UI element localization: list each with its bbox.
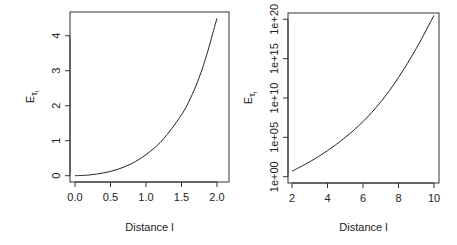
right-y-axis-label: Eτl: [242, 92, 258, 104]
y-tick-label: 1e+10: [268, 83, 280, 114]
svg-text:Eτl: Eτl: [24, 91, 40, 103]
left-y-axis: 01234: [50, 33, 70, 179]
figure: 0.00.51.01.52.0 01234 Distance l Eτl 246…: [0, 0, 457, 245]
y-tick-label: 0: [50, 173, 62, 179]
svg-text:Eτl: Eτl: [242, 92, 258, 104]
y-tick-label: 1e+05: [268, 122, 280, 153]
x-tick-label: 2: [289, 192, 295, 204]
right-plot-frame: [288, 13, 439, 183]
x-tick-label: 0.0: [67, 191, 82, 203]
left-plot-frame: [70, 12, 229, 182]
right-chart: 246810 1e+001e+051e+101e+151e+20 Distanc…: [242, 4, 440, 233]
x-tick-label: 8: [395, 192, 401, 204]
y-tick-label: 1e+20: [268, 4, 280, 35]
x-tick-label: 0.5: [103, 191, 118, 203]
y-tick-label: 2: [50, 103, 62, 109]
x-tick-label: 10: [428, 192, 440, 204]
left-y-axis-label: Eτl: [24, 91, 40, 103]
left-chart: 0.00.51.01.52.0 01234 Distance l Eτl: [24, 12, 229, 233]
right-curve: [292, 15, 434, 171]
x-tick-label: 2.0: [209, 191, 224, 203]
y-tick-label: 4: [50, 33, 62, 39]
y-tick-label: 1e+00: [268, 161, 280, 192]
x-tick-label: 6: [360, 192, 366, 204]
right-y-axis: 1e+001e+051e+101e+151e+20: [268, 4, 288, 192]
left-curve: [75, 18, 217, 175]
y-tick-label: 3: [50, 68, 62, 74]
left-x-axis: 0.00.51.01.52.0: [67, 182, 224, 203]
left-x-axis-label: Distance l: [125, 221, 173, 233]
x-tick-label: 4: [324, 192, 330, 204]
y-tick-label: 1e+15: [268, 43, 280, 74]
y-tick-label: 1: [50, 138, 62, 144]
x-tick-label: 1.5: [174, 191, 189, 203]
right-x-axis: 246810: [289, 183, 440, 204]
right-x-axis-label: Distance l: [339, 221, 387, 233]
x-tick-label: 1.0: [138, 191, 153, 203]
